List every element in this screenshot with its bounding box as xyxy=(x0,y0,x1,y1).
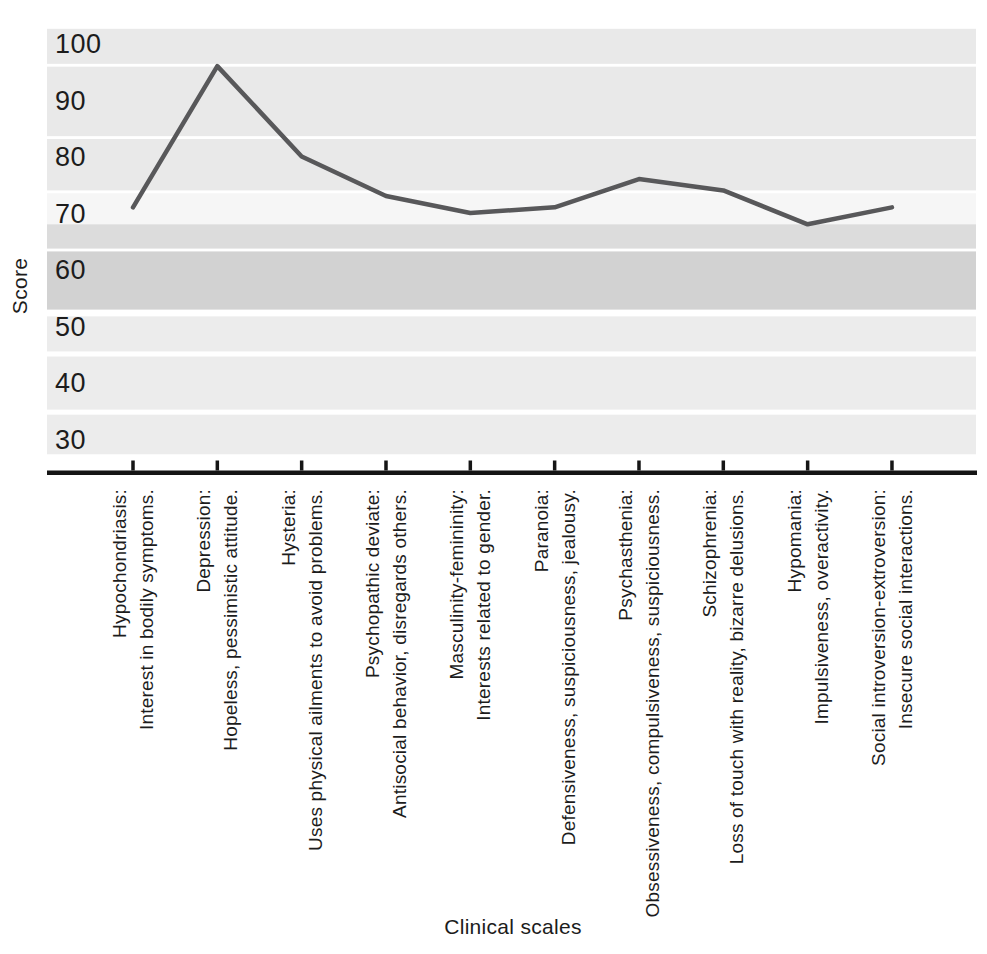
x-axis-tick xyxy=(890,461,894,471)
category-description: Interest in bodily symptoms. xyxy=(136,489,157,730)
category-description: Impulsiveness, overactivity. xyxy=(811,489,832,724)
x-axis-tick xyxy=(300,461,304,471)
background-band xyxy=(47,415,976,455)
x-axis-tick xyxy=(722,461,726,471)
x-axis-tick xyxy=(131,461,135,471)
category-description: Loss of touch with reality, bizarre delu… xyxy=(726,489,747,864)
y-axis-title: Score xyxy=(8,258,31,314)
category-description: Obsessiveness, compulsiveness, suspiciou… xyxy=(642,489,663,917)
y-tick-label: 50 xyxy=(55,312,86,342)
y-tick-label: 80 xyxy=(55,142,86,172)
category-name: Hysteria: xyxy=(278,489,299,566)
background-band xyxy=(47,29,976,64)
category-description: Antisocial behavior, disregards others. xyxy=(389,489,410,818)
category-description: Insecure social interactions. xyxy=(895,489,916,729)
background-band xyxy=(47,251,976,309)
x-axis-line xyxy=(47,471,977,476)
category-description: Defensiveness, suspiciousness, jealousy. xyxy=(558,489,579,845)
background-bands xyxy=(47,29,976,454)
y-tick-label: 100 xyxy=(55,29,102,59)
category-name: Hypochondriasis: xyxy=(109,489,130,638)
y-tick-label: 30 xyxy=(55,425,86,455)
x-axis-tick xyxy=(216,461,220,471)
x-axis-tick xyxy=(469,461,473,471)
x-axis-tick xyxy=(553,461,557,471)
mmpi-profile-chart: 10090807060504030 Score Hypochondriasis:… xyxy=(0,0,987,954)
background-band xyxy=(47,357,976,410)
y-tick-label: 90 xyxy=(55,86,86,116)
category-name: Depression: xyxy=(193,489,214,593)
x-axis-tick xyxy=(637,461,641,471)
background-band xyxy=(47,67,976,136)
y-tick-label: 70 xyxy=(55,199,86,229)
background-band xyxy=(47,224,976,248)
background-band xyxy=(47,139,976,190)
category-name: Hypomania: xyxy=(784,489,805,592)
x-axis-title: Clinical scales xyxy=(444,915,582,938)
category-name: Masculinity-femininity: xyxy=(446,489,467,679)
y-tick-label: 60 xyxy=(55,255,86,285)
x-axis-tick xyxy=(806,461,810,471)
category-name: Schizophrenia: xyxy=(699,489,720,618)
category-description: Uses physical ailments to avoid problems… xyxy=(305,489,326,851)
x-axis-tick xyxy=(384,461,388,471)
background-band xyxy=(47,316,976,351)
category-name: Social introversion-extroversion: xyxy=(868,489,889,766)
category-name: Psychopathic deviate: xyxy=(362,489,383,678)
category-name: Paranoia: xyxy=(531,489,552,572)
category-description: Interests related to gender. xyxy=(473,489,494,721)
category-description: Hopeless, pessimistic attitude. xyxy=(220,489,241,751)
mmpi-profile-figure: 10090807060504030 Score Hypochondriasis:… xyxy=(0,0,987,954)
category-name: Psychasthenia: xyxy=(615,489,636,621)
x-axis-category-labels: Hypochondriasis:Interest in bodily sympt… xyxy=(109,489,916,917)
x-axis xyxy=(47,461,977,476)
y-tick-label: 40 xyxy=(55,368,86,398)
